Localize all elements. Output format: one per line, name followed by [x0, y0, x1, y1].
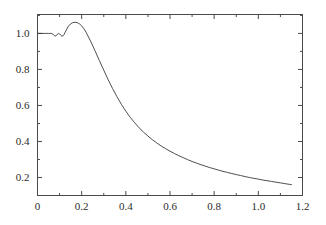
y-tick-label: 0.2: [16, 171, 30, 183]
y-tick-label: 0.4: [16, 135, 30, 147]
y-tick-label: 0.8: [16, 63, 30, 75]
x-tick-label: 1.0: [251, 200, 265, 212]
y-tick-label: 1.0: [16, 27, 30, 39]
x-tick-label: 0.2: [75, 200, 89, 212]
y-tick-label: 0.6: [16, 99, 30, 111]
x-tick-label: 0.8: [207, 200, 221, 212]
chart-figure: 00.20.40.60.81.01.2 0.20.40.60.81.0: [0, 0, 326, 225]
x-tick-label: 0.4: [119, 200, 133, 212]
x-tick-label: 0: [35, 200, 41, 212]
x-tick-label: 1.2: [296, 200, 310, 212]
line-chart: 00.20.40.60.81.01.2 0.20.40.60.81.0: [0, 0, 326, 225]
x-tick-label: 0.6: [163, 200, 177, 212]
